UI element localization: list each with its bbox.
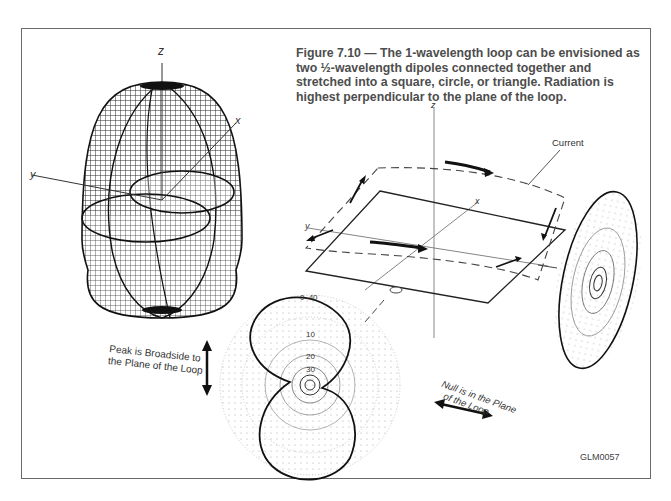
loop-z-axis-label: z xyxy=(430,100,436,110)
y-axis-label: y xyxy=(29,168,37,180)
z-axis-label: z xyxy=(157,44,164,58)
ring-label-0: 0 xyxy=(300,293,305,302)
ring-label-20: 20 xyxy=(306,352,315,361)
pattern-3d: z x y xyxy=(29,44,242,318)
ring-label-40: -40 xyxy=(306,293,318,302)
ring-label-10: 10 xyxy=(306,330,315,339)
peak-arrow xyxy=(202,340,212,396)
azimuth-plot xyxy=(540,182,657,379)
figure-artwork: z x y z x y xyxy=(0,0,671,501)
current-label: Current xyxy=(552,137,584,148)
loop-y-axis-label: y xyxy=(304,221,310,231)
loop-x-axis-label: x xyxy=(474,196,480,206)
ring-label-30: 30 xyxy=(306,365,315,374)
elevation-plot: 0 -40 10 20 30 xyxy=(220,293,400,480)
figure-id-code: GLM0057 xyxy=(580,452,620,462)
x-axis-label: x xyxy=(234,114,241,126)
